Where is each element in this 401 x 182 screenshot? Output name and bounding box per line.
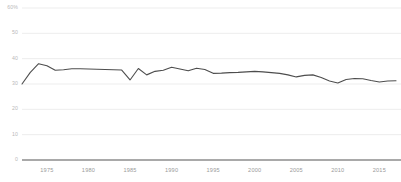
- y-axis-tick-label: 10: [0, 132, 18, 137]
- y-axis-tick-label: 40: [0, 56, 18, 61]
- y-axis-tick-label: 0: [0, 157, 18, 162]
- y-axis-tick-label: 30: [0, 81, 18, 86]
- series-polyline: [22, 64, 396, 84]
- x-axis-tick-label: 1975: [32, 168, 62, 174]
- chart-plot-area: [0, 0, 401, 182]
- x-axis-tick-label: 1995: [198, 168, 228, 174]
- x-axis-tick-label: 2010: [323, 168, 353, 174]
- x-axis-tick-label: 2015: [364, 168, 394, 174]
- x-axis-tick-label: 1990: [157, 168, 187, 174]
- gridlines: [22, 8, 401, 135]
- x-axis-tick-label: 2005: [281, 168, 311, 174]
- y-axis-tick-label: 60%: [0, 5, 18, 10]
- line-chart: 0102030405060% 1975198019851990199520002…: [0, 0, 401, 182]
- y-axis-tick-label: 20: [0, 106, 18, 111]
- x-axis-tick-label: 1980: [73, 168, 103, 174]
- data-line-series-1: [22, 64, 396, 84]
- y-axis-tick-label: 50: [0, 30, 18, 35]
- x-axis-tick-label: 2000: [240, 168, 270, 174]
- x-axis-tick-label: 1985: [115, 168, 145, 174]
